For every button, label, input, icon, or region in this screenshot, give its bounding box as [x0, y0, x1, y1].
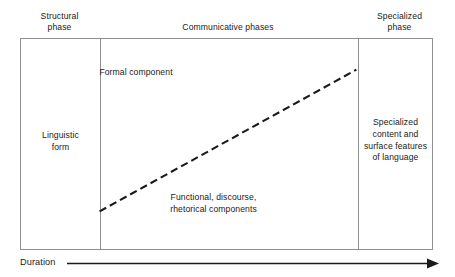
heading-structural-phase: Structural phase: [20, 11, 99, 33]
region-label-linguistic-form: Linguistic form: [21, 130, 100, 153]
region-label-formal-component: Formal component: [66, 67, 206, 79]
heading-specialized-phase: Specialized phase: [357, 11, 442, 33]
duration-axis-label: Duration: [20, 256, 56, 268]
region-label-functional-discourse: Functional, discourse, rhetorical compon…: [126, 192, 301, 215]
duration-axis: Duration: [20, 256, 440, 274]
heading-communicative-phases: Communicative phases: [99, 22, 357, 33]
diagram-figure: Structural phase Communicative phases Sp…: [0, 0, 455, 277]
duration-arrow-icon: [67, 256, 440, 270]
duration-arrow-head: [427, 259, 439, 269]
chart-frame: Linguistic form Formal component Functio…: [20, 38, 433, 250]
region-label-specialized-content: Specialized content and surface features…: [351, 117, 440, 164]
trend-line-segment: [100, 70, 357, 212]
